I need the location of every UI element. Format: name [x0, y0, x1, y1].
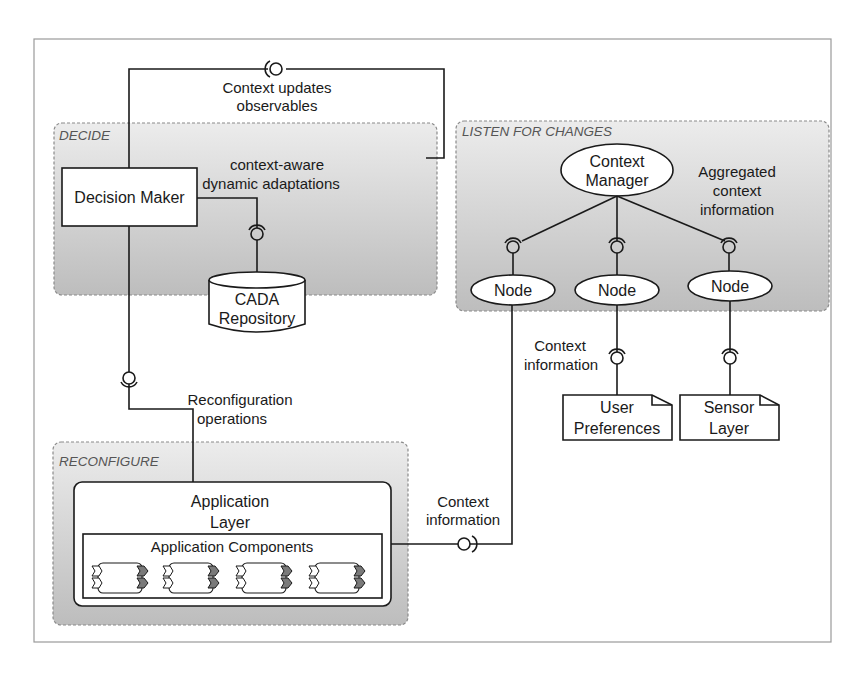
svg-text:Sensor: Sensor: [704, 399, 755, 416]
svg-text:Node: Node: [598, 282, 636, 299]
svg-text:information: information: [426, 511, 500, 528]
architecture-diagram: DECIDE LISTEN FOR CHANGES RECONFIGURE Co…: [0, 0, 864, 680]
svg-text:Context: Context: [437, 493, 490, 510]
app-component-1[interactable]: [92, 563, 148, 593]
svg-text:Context updates: Context updates: [222, 79, 331, 96]
svg-text:User: User: [600, 399, 634, 416]
region-listen-label: LISTEN FOR CHANGES: [462, 124, 612, 139]
svg-text:Decision Maker: Decision Maker: [74, 189, 185, 206]
svg-text:Application: Application: [191, 493, 269, 510]
svg-text:Layer: Layer: [709, 420, 750, 437]
app-component-2[interactable]: [163, 563, 219, 593]
svg-text:dynamic adaptations: dynamic adaptations: [202, 175, 340, 192]
sensor-layer-document[interactable]: Sensor Layer: [680, 395, 779, 440]
context-manager[interactable]: Context Manager: [561, 144, 673, 196]
svg-text:CADA: CADA: [235, 291, 280, 308]
svg-text:Layer: Layer: [210, 514, 251, 531]
app-component-4[interactable]: [309, 563, 365, 593]
region-decide-label: DECIDE: [59, 128, 111, 143]
svg-text:Aggregated: Aggregated: [698, 163, 776, 180]
node-2[interactable]: Node: [575, 275, 659, 305]
svg-text:context: context: [713, 182, 762, 199]
application-components-label: Application Components: [151, 538, 314, 555]
app-component-3[interactable]: [236, 563, 292, 593]
svg-text:observables: observables: [237, 97, 318, 114]
user-preferences-document[interactable]: User Preferences: [563, 395, 672, 440]
svg-text:context-aware: context-aware: [230, 156, 324, 173]
svg-text:Preferences: Preferences: [574, 420, 660, 437]
svg-text:Manager: Manager: [585, 172, 649, 189]
region-reconfigure-label: RECONFIGURE: [59, 454, 160, 469]
svg-text:information: information: [700, 201, 774, 218]
svg-text:Node: Node: [494, 282, 532, 299]
svg-text:Context: Context: [589, 153, 645, 170]
node-1[interactable]: Node: [471, 275, 555, 305]
svg-text:operations: operations: [197, 410, 267, 427]
svg-text:Repository: Repository: [219, 310, 295, 327]
node-3[interactable]: Node: [688, 271, 772, 301]
svg-text:Reconfiguration: Reconfiguration: [187, 391, 292, 408]
decision-maker-component[interactable]: Decision Maker: [62, 168, 197, 226]
cada-repository[interactable]: CADA Repository: [209, 272, 305, 332]
svg-text:Node: Node: [711, 278, 749, 295]
svg-text:Context: Context: [534, 337, 587, 354]
svg-text:information: information: [524, 356, 598, 373]
